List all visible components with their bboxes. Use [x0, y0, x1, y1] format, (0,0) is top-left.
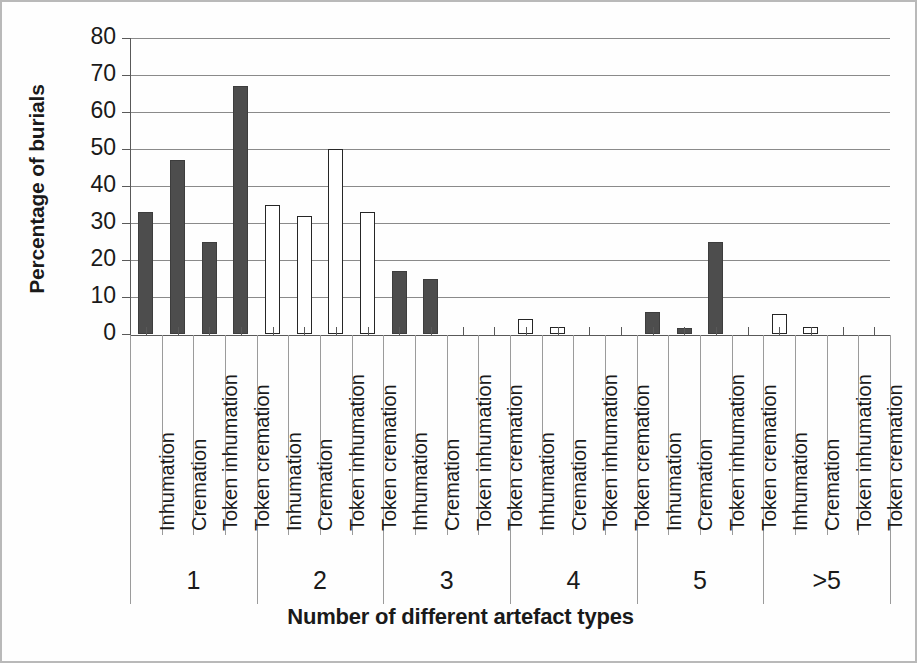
group-label: >5 [763, 564, 890, 596]
bar [297, 216, 312, 334]
y-axis-tick-label: 0 [46, 321, 116, 344]
y-axis-tick-label: 60 [46, 99, 116, 122]
bar [328, 149, 343, 334]
category-label: Inhumation [663, 321, 685, 531]
category-axis: InhumationCremationToken inhumationToken… [130, 335, 890, 565]
category-label: Cremation [568, 321, 590, 531]
bar [360, 212, 375, 334]
bar-series [130, 38, 890, 334]
bar [265, 205, 280, 335]
plot-area: 80706050403020100 [130, 38, 890, 334]
group-label: 4 [510, 564, 637, 596]
group-divider [890, 558, 891, 604]
y-axis-tick-label: 70 [46, 62, 116, 85]
group-axis: 12345>5 [130, 558, 890, 604]
y-axis-tick-label: 80 [46, 25, 116, 48]
category-label: Cremation [314, 321, 336, 531]
category-cell-divider [130, 335, 131, 558]
y-axis-tick-label: 10 [46, 284, 116, 307]
group-label: 5 [637, 564, 764, 596]
y-axis-tick-label: 40 [46, 173, 116, 196]
group-label: 3 [383, 564, 510, 596]
bar [170, 160, 185, 334]
category-label: Cremation [821, 321, 843, 531]
group-label: 1 [130, 564, 257, 596]
y-axis-tick-label: 20 [46, 247, 116, 270]
category-label: Token cremation [758, 321, 780, 531]
group-label: 2 [257, 564, 384, 596]
category-label: Inhumation [409, 321, 431, 531]
category-label: Inhumation [283, 321, 305, 531]
category-label: Inhumation [536, 321, 558, 531]
category-label: Inhumation [156, 321, 178, 531]
category-label: Token inhumation [473, 321, 495, 531]
category-label: Token inhumation [219, 321, 241, 531]
category-label: Token cremation [378, 321, 400, 531]
category-label: Token inhumation [346, 321, 368, 531]
category-label: Token cremation [504, 321, 526, 531]
category-label: Token inhumation [853, 321, 875, 531]
x-axis-tick [146, 327, 147, 335]
chart-frame: Percentage of burials 80706050403020100 … [0, 0, 917, 663]
category-label: Cremation [441, 321, 463, 531]
bar [233, 86, 248, 334]
x-axis-title: Number of different artefact types [2, 604, 917, 630]
bar [138, 212, 153, 334]
category-label: Cremation [694, 321, 716, 531]
category-label: Token inhumation [599, 321, 621, 531]
category-label: Token inhumation [726, 321, 748, 531]
y-axis-tick-label: 50 [46, 136, 116, 159]
y-axis-tick-label: 30 [46, 210, 116, 233]
category-label: Cremation [188, 321, 210, 531]
category-label: Inhumation [789, 321, 811, 531]
category-label: Token cremation [631, 321, 653, 531]
category-label: Token cremation [884, 321, 906, 531]
category-label: Token cremation [251, 321, 273, 531]
